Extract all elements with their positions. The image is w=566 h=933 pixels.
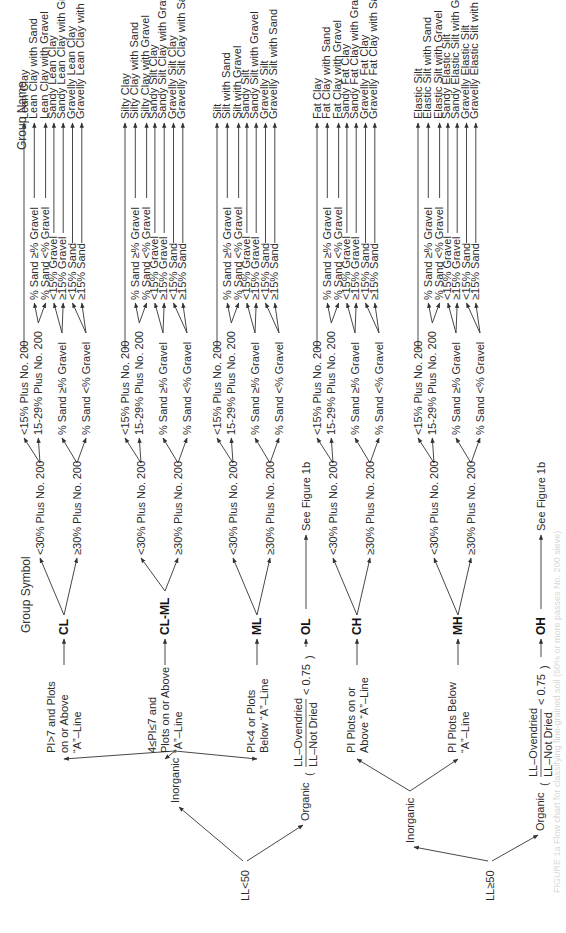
group-symbol-cl: CL — [57, 619, 71, 635]
group-symbol-header: Group Symbol — [19, 556, 33, 633]
branch-15-29: 15-29% Plus No. 200 — [32, 331, 44, 435]
branch-sand-lt-gravel: % Sand <% Gravel — [80, 342, 92, 435]
group-name-mh-6: Gravelly Elastic Silt with Sand — [468, 0, 480, 119]
group-name-cl-6: Gravelly Lean Clay with Sand — [74, 0, 86, 119]
branch-lt15: <15% Plus No. 200 — [211, 341, 223, 435]
connector-arrow — [34, 303, 38, 323]
connector-arrow — [62, 303, 63, 333]
connector-arrow — [347, 303, 355, 333]
connector-arrow — [163, 438, 178, 463]
connector-arrow — [370, 438, 379, 463]
connector-arrow — [492, 835, 538, 861]
branch-sand-lt-gravel: % Sand <% Gravel — [474, 342, 486, 435]
connector-arrow — [331, 438, 333, 463]
connector-arrow — [178, 438, 187, 463]
branch-sand-ge-gravel: % Sand ≥% Gravel — [249, 342, 261, 435]
criterion-clml: 4≤PI≤7 andPlots on or Above“A”–Line — [146, 667, 184, 753]
branch-15-29: 15-29% Plus No. 200 — [426, 331, 438, 435]
group-name-ml-6: Gravelly Silt with Sand — [267, 9, 279, 119]
group-symbol-mh: MH — [451, 616, 465, 635]
branch-15-29: 15-29% Plus No. 200 — [325, 331, 337, 435]
connector-arrow — [231, 438, 233, 463]
connector-arrow — [456, 438, 471, 463]
ratio-paren-right: ) — [303, 655, 315, 659]
ratio-comparison: < 0.75 — [300, 664, 312, 695]
branch-lt15: <15% Plus No. 200 — [18, 341, 30, 435]
ratio-numerator: LL–Ovendried — [292, 698, 304, 767]
root-ll-ge-50: LL≥50 — [484, 870, 496, 901]
group-symbol-clml: CL-ML — [158, 598, 172, 635]
branch-sand-ge-gravel: % Sand ≥% Gravel — [56, 342, 68, 435]
branch-ge15-sand: ≥15% Sand — [368, 243, 380, 300]
organic-label: Organic — [299, 782, 311, 821]
connector-arrow — [227, 303, 231, 323]
connector-arrow — [414, 847, 488, 861]
branch-sand-ge-gravel: % Sand ≥% Gravel — [349, 342, 361, 435]
connector-arrow — [428, 303, 432, 323]
connector-arrow — [255, 438, 270, 463]
connector-arrow — [179, 807, 243, 861]
group-name-clml-6: Gravelly Silt Clay with Sand — [175, 0, 187, 119]
connector-arrow — [247, 825, 303, 861]
connector-arrow — [163, 303, 164, 333]
connector-arrow — [456, 303, 457, 333]
organic-label: Organic — [534, 792, 546, 831]
connector-arrow — [410, 759, 458, 791]
group-symbol-ol: OL — [299, 618, 313, 635]
connector-arrow — [217, 438, 233, 463]
connector-arrow — [24, 438, 40, 463]
branch-lt15: <15% Plus No. 200 — [119, 341, 131, 435]
connector-arrow — [77, 438, 86, 463]
branch-ge30: ≥30% Plus No. 200 — [264, 461, 276, 555]
connector-arrow — [54, 303, 62, 333]
connector-arrow — [357, 558, 370, 615]
inorganic-label: Inorganic — [169, 757, 181, 803]
connector-arrow — [247, 303, 255, 333]
branch-lt30: <30% Plus No. 200 — [428, 461, 440, 555]
branch-ge15-sand: ≥15% Sand — [268, 243, 280, 300]
connector-arrow — [64, 558, 77, 615]
connector-arrow — [139, 438, 141, 463]
branch-15-29: 15-29% Plus No. 200 — [133, 331, 145, 435]
branch-ge15-sand: ≥15% Sand — [75, 243, 87, 300]
branch-ge30: ≥30% Plus No. 200 — [364, 461, 376, 555]
ratio-paren-left: ( — [303, 772, 315, 776]
criterion-ch: PI Plots on orAbove “A”–Line — [345, 677, 370, 753]
connector-arrow — [448, 303, 456, 333]
connector-arrow — [125, 438, 141, 463]
fine-grained-soil-flowchart: Group Symbol Group Name LL<50InorganicOr… — [0, 0, 566, 933]
inorganic-label: Inorganic — [404, 797, 416, 843]
branch-ge30: ≥30% Plus No. 200 — [71, 461, 83, 555]
branch-lt15: <15% Plus No. 200 — [311, 341, 323, 435]
root-ll-lt-50: LL<50 — [239, 870, 251, 901]
branch-sand-ge-gravel: % Sand ≥% Gravel — [450, 342, 462, 435]
branch-ge30: ≥30% Plus No. 200 — [465, 461, 477, 555]
branch-ge15-sand: ≥15% Sand — [469, 243, 481, 300]
connector-arrow — [327, 303, 331, 323]
criterion-mh: PI Plots Below“A”–Line — [446, 682, 471, 753]
ratio-paren-right: ) — [538, 665, 550, 669]
branch-lt30: <30% Plus No. 200 — [327, 461, 339, 555]
connector-arrow — [357, 759, 410, 791]
connector-arrow — [432, 438, 434, 463]
connector-arrow — [231, 303, 238, 323]
see-figure-link: See Figure 1b — [300, 462, 312, 531]
connector-arrow — [257, 558, 270, 615]
connector-arrow — [38, 438, 40, 463]
figure-caption: FIGURE 1a Flow chart for classifying fin… — [552, 531, 562, 893]
connector-arrow — [135, 303, 139, 323]
connector-arrow — [139, 303, 146, 323]
connector-arrow — [165, 558, 178, 591]
branch-ge30: ≥30% Plus No. 200 — [172, 461, 184, 555]
connector-arrow — [270, 438, 279, 463]
connector-arrow — [333, 558, 357, 615]
branch-sand-lt-gravel: % Sand <% Gravel — [373, 342, 385, 435]
flowchart-stage: Group Symbol Group Name LL<50InorganicOr… — [0, 0, 566, 933]
criterion-cl: PI>7 and Plotson or Above“A”–Line — [45, 681, 83, 753]
ratio-numerator: LL–Ovendried — [527, 708, 539, 777]
connector-arrow — [434, 558, 458, 615]
group-name-ch-6: Gravelly Fat Clay with Sand — [367, 0, 379, 119]
connector-arrow — [155, 303, 163, 333]
ratio-denominator: LL–Not Dried — [307, 702, 319, 767]
connector-arrow — [355, 303, 356, 333]
